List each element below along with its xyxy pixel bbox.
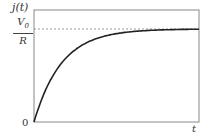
x-axis-label: t (192, 123, 196, 134)
fraction-denominator: R (13, 35, 33, 46)
response-curve (34, 29, 199, 122)
fraction-bar (13, 33, 33, 34)
origin-label: 0 (22, 117, 28, 128)
y-axis-label: j(t) (12, 1, 28, 14)
asymptote-label: V0 R (13, 16, 33, 46)
fraction-numerator: V0 (13, 16, 33, 32)
